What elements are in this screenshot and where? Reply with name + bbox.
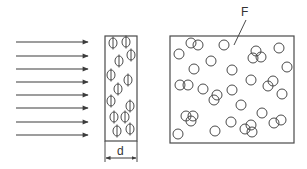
particle-circle-icon [257, 108, 267, 118]
particle-icon [127, 49, 135, 62]
sample-front-view [170, 20, 294, 143]
thickness-label: d [117, 145, 124, 157]
particle-icon [126, 123, 134, 136]
particle-icon [109, 37, 117, 50]
particle-circle-icon [173, 129, 183, 139]
particle-icon [126, 100, 134, 113]
particle-circle-icon [277, 89, 287, 99]
particle-icon [107, 95, 115, 108]
particle-circle-icon [246, 75, 256, 85]
particle-circle-icon [198, 84, 208, 94]
leader-line [234, 20, 246, 45]
incident-beam-arrows [16, 42, 88, 135]
particle-circle-icon [227, 65, 237, 75]
sample-slab-box [105, 36, 137, 141]
particle-circle-icon [193, 40, 203, 50]
particle-icon [110, 111, 118, 124]
particle-icon [113, 125, 121, 138]
particle-circle-icon [186, 38, 196, 48]
particle-circle-icon [174, 49, 184, 59]
particle-icon [124, 74, 132, 87]
particle-circle-icon [219, 40, 229, 50]
particle-circle-icon [236, 100, 246, 110]
particle-icon [121, 111, 129, 124]
particle-circle-icon [226, 117, 236, 127]
particle-circle-icon [274, 43, 284, 53]
particle-circle-icon [206, 56, 216, 66]
particle-icon [122, 36, 130, 49]
particle-circle-icon [227, 85, 237, 95]
particle-icon [115, 55, 123, 68]
particle-circle-icon [189, 64, 199, 74]
particle-circle-icon [210, 126, 220, 136]
diagram-canvas [0, 0, 307, 169]
particle-icon [107, 69, 115, 82]
particle-circle-icon [282, 62, 292, 72]
particle-icon [114, 83, 122, 96]
film-label: F [241, 6, 248, 18]
